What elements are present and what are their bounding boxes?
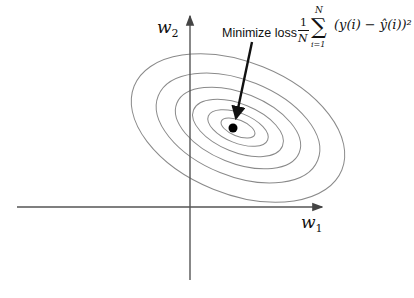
loss-formula: 1 N N ∑ i=1 (y(i) − ŷ(i))² [298, 8, 414, 50]
minimum-point [229, 124, 238, 133]
contour-ellipses [109, 25, 366, 231]
contour-3 [164, 71, 313, 185]
contour-2 [140, 51, 335, 204]
x-axis-label: w1 [301, 212, 323, 235]
sum-symbol: ∑ [311, 14, 327, 39]
contour-4 [185, 88, 292, 168]
annotation-text: Minimize loss [222, 26, 297, 40]
y-axis-label: w2 [157, 17, 179, 40]
contour-1 [109, 25, 366, 231]
